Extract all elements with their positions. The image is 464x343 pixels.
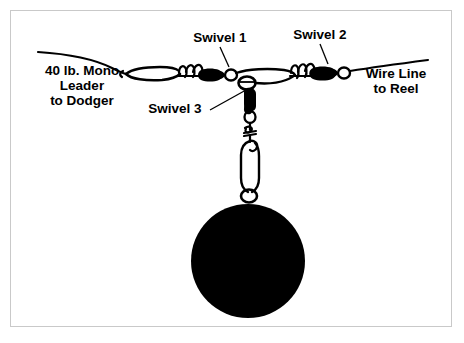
label-swivel-2: Swivel 2 [286, 27, 354, 42]
label-swivel-3: Swivel 3 [138, 101, 212, 116]
swivel-2-barrel [309, 67, 338, 81]
cannonball-weight [191, 204, 305, 318]
leader-line-swivel2 [320, 44, 328, 64]
label-wire-line: Wire Line to Reel [344, 66, 448, 96]
diagram-canvas: 40 lb. Mono Leader to Dodger Wire Line t… [0, 0, 464, 343]
snap-clip [241, 141, 259, 203]
leader-line-swivel1 [220, 47, 229, 67]
swivel-1-ring [225, 70, 237, 81]
twisted-wire [244, 123, 256, 142]
rig-illustration [0, 0, 464, 343]
leader-line-swivel3 [210, 90, 246, 110]
swivel-1-barrel [198, 69, 225, 82]
label-swivel-1: Swivel 1 [186, 30, 254, 45]
label-mono-leader: 40 lb. Mono Leader to Dodger [22, 63, 142, 108]
center-junction-ring [239, 77, 256, 90]
